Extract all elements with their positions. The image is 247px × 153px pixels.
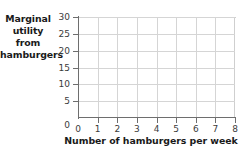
y-axis-tick-label: 10 — [50, 80, 70, 89]
chart-figure: Marginal utility from hamburgers 0510152… — [0, 0, 247, 153]
x-axis-tick-label: 4 — [147, 125, 167, 134]
y-axis-tick-label: 30 — [50, 13, 70, 22]
y-axis-label-line-3: from — [0, 37, 56, 49]
x-axis-tick-label: 5 — [166, 125, 186, 134]
x-axis-tick — [98, 118, 99, 123]
x-axis-tick-label: 7 — [205, 125, 225, 134]
y-axis-label-line-4: hamburgers — [0, 49, 56, 61]
y-axis-label: Marginal utility from hamburgers — [0, 13, 56, 61]
y-axis-tick-label: 25 — [50, 30, 70, 39]
x-axis-tick — [117, 118, 118, 123]
x-axis-tick-label: 8 — [225, 125, 245, 134]
x-axis-tick — [157, 118, 158, 123]
y-axis-tick-label: 0 — [50, 121, 70, 130]
gridline-vertical — [176, 17, 177, 118]
y-axis-tick — [73, 101, 78, 102]
x-axis-tick-label: 6 — [186, 125, 206, 134]
y-axis-tick-label: 5 — [50, 97, 70, 106]
y-axis-tick-label: 15 — [50, 64, 70, 73]
x-axis-tick-label: 0 — [68, 125, 88, 134]
x-axis-tick-label: 3 — [127, 125, 147, 134]
x-axis-tick — [235, 118, 236, 123]
y-axis-tick — [73, 34, 78, 35]
gridline-vertical — [196, 17, 197, 118]
x-axis-tick — [196, 118, 197, 123]
x-axis-tick — [215, 118, 216, 123]
y-axis-label-line-1: Marginal — [0, 13, 56, 25]
y-axis-tick-label: 20 — [50, 47, 70, 56]
gridline-vertical — [215, 17, 216, 118]
gridline-vertical — [137, 17, 138, 118]
gridline-vertical — [117, 17, 118, 118]
y-axis-label-line-2: utility — [0, 25, 56, 37]
x-axis-tick — [176, 118, 177, 123]
plot-area — [78, 17, 235, 118]
y-axis-tick — [73, 68, 78, 69]
gridline-vertical — [157, 17, 158, 118]
y-axis-tick — [73, 84, 78, 85]
y-axis-tick — [73, 51, 78, 52]
y-axis-tick — [73, 17, 78, 18]
x-axis-tick-label: 2 — [107, 125, 127, 134]
x-axis-tick-label: 1 — [88, 125, 108, 134]
y-axis-line — [78, 16, 79, 119]
gridline-vertical — [98, 17, 99, 118]
x-axis-label: Number of hamburgers per week — [55, 135, 247, 146]
x-axis-tick — [137, 118, 138, 123]
